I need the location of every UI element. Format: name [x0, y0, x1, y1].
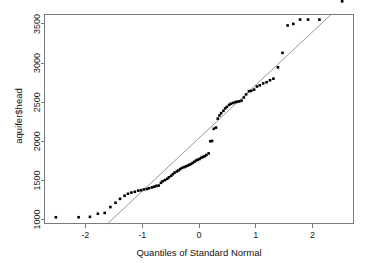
data-point	[272, 77, 275, 80]
data-point	[220, 112, 223, 115]
y-tick-label: 2000	[32, 131, 42, 151]
data-point	[151, 186, 154, 189]
data-point	[119, 198, 122, 201]
data-point	[97, 212, 100, 215]
y-tick-label: 1000	[32, 210, 42, 230]
data-point	[292, 23, 295, 26]
x-tick-label: 2	[310, 230, 315, 240]
x-tick-label: 1	[253, 230, 258, 240]
data-point	[238, 100, 241, 103]
data-point	[148, 187, 151, 190]
data-point	[230, 102, 233, 105]
data-point	[218, 114, 221, 117]
data-point	[250, 90, 253, 93]
data-point	[262, 82, 265, 85]
data-point	[205, 154, 208, 157]
data-point	[299, 18, 302, 21]
data-point	[145, 188, 148, 191]
data-point	[281, 52, 284, 55]
data-point	[155, 185, 158, 188]
y-tick-label: 3500	[32, 14, 42, 34]
data-point	[211, 140, 214, 143]
data-point	[277, 66, 280, 69]
x-axis-title: Quantiles of Standard Normal	[136, 247, 261, 258]
data-point	[55, 216, 58, 219]
data-point	[212, 127, 215, 130]
data-point	[103, 212, 106, 215]
y-tick-label: 2500	[32, 92, 42, 112]
data-point	[89, 216, 92, 219]
x-tick-label: -1	[138, 230, 146, 240]
data-point	[123, 194, 126, 197]
data-point	[130, 191, 133, 194]
data-point	[153, 185, 156, 188]
data-point	[248, 90, 251, 93]
data-point	[134, 191, 137, 194]
data-point	[269, 79, 272, 82]
data-point	[307, 18, 310, 21]
data-point	[215, 126, 218, 129]
data-point	[161, 180, 164, 183]
data-point	[137, 189, 140, 192]
data-point	[253, 88, 256, 91]
data-point	[318, 18, 321, 21]
data-point	[245, 93, 248, 96]
data-point	[143, 188, 146, 191]
qq-plot-figure: -2-1012 100015002000250030003500 Quantil…	[0, 0, 374, 263]
data-point	[341, 0, 344, 3]
data-point	[157, 184, 160, 187]
data-point	[256, 85, 259, 88]
data-point	[127, 192, 130, 195]
data-point	[77, 216, 80, 219]
data-point	[207, 152, 210, 155]
x-tick-label: 0	[196, 230, 201, 240]
data-point	[240, 99, 243, 102]
data-point	[236, 100, 239, 103]
data-point	[140, 189, 143, 192]
y-axis-title: aquifer$head	[13, 88, 24, 143]
data-point	[109, 206, 112, 209]
qq-plot-canvas: -2-1012 100015002000250030003500 Quantil…	[0, 0, 374, 263]
data-point	[286, 24, 289, 27]
y-tick-label: 1500	[32, 170, 42, 190]
data-point	[173, 171, 176, 174]
data-point	[222, 109, 225, 112]
data-point	[168, 176, 171, 179]
data-point	[181, 167, 184, 170]
data-point	[164, 179, 167, 182]
data-point	[226, 106, 229, 109]
x-tick-label: -2	[81, 230, 89, 240]
data-point	[216, 117, 219, 120]
data-point	[243, 96, 246, 99]
data-point	[265, 81, 268, 84]
data-point	[232, 102, 235, 105]
data-point	[258, 84, 261, 87]
y-tick-label: 3000	[32, 53, 42, 73]
data-point	[114, 201, 117, 204]
